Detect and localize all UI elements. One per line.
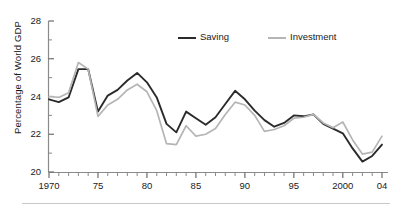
x-tick-label: 85 (176, 180, 216, 191)
y-tick-label: 22 (19, 128, 41, 139)
footer-divider (22, 203, 390, 204)
x-tick-label: 04 (362, 180, 402, 191)
y-tick-label: 26 (19, 53, 41, 64)
y-tick-label: 28 (19, 15, 41, 26)
legend-swatch-saving (178, 37, 196, 39)
legend-swatch-investment (268, 37, 286, 39)
axis-tick-marks (49, 21, 383, 178)
chart-figure: Percentage of World GDP 2022242628 19707… (0, 0, 408, 208)
x-tick-label: 80 (127, 180, 167, 191)
data-series-lines (49, 63, 382, 162)
x-tick-label: 2000 (323, 180, 363, 191)
x-tick-label: 95 (274, 180, 314, 191)
legend-label-saving: Saving (200, 31, 229, 42)
x-tick-label: 90 (225, 180, 265, 191)
legend-label-investment: Investment (290, 31, 336, 42)
y-tick-label: 24 (19, 91, 41, 102)
x-tick-label: 1970 (29, 180, 69, 191)
y-tick-label: 20 (19, 166, 41, 177)
x-tick-label: 75 (78, 180, 118, 191)
axis-lines (49, 21, 389, 173)
